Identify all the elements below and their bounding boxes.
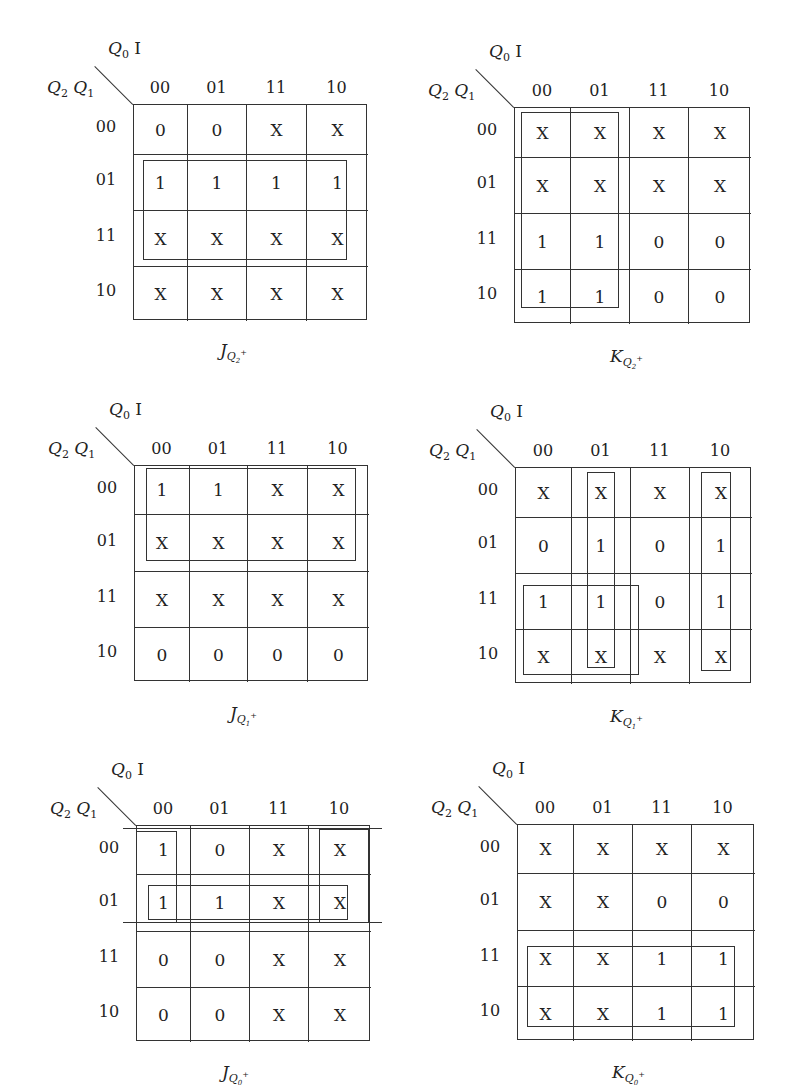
kmap-cell: 0 [689, 214, 751, 270]
row-label: 10 [475, 1001, 505, 1020]
kmap-title: KQ2+ [610, 346, 643, 372]
kmap-cell: X [515, 158, 571, 214]
kmap-cell: 1 [188, 155, 247, 211]
title-main: J [230, 703, 237, 723]
kmap-cell: 0 [137, 988, 191, 1042]
kmap-cell: X [135, 515, 190, 572]
kmap-cell: X [518, 825, 574, 874]
row-label: 11 [475, 946, 505, 965]
column-variables-label: Q0 I [489, 41, 522, 64]
kmap-cell: 0 [630, 270, 689, 324]
title-sup-plus: + [250, 712, 257, 721]
column-label: 00 [515, 441, 571, 460]
kmap-cell: 0 [689, 270, 751, 324]
row-label: 11 [94, 947, 124, 966]
kmap-cell: X [307, 211, 368, 267]
title-main: J [222, 1062, 229, 1082]
kmap-cell: X [250, 932, 309, 988]
kmap-cell: X [248, 572, 308, 628]
kmap-cell: 1 [516, 574, 572, 630]
kmap-cell: 1 [307, 155, 368, 211]
kmap-cell: X [690, 468, 752, 518]
kmap-cell: X [188, 211, 247, 267]
kmap-cell: X [134, 267, 188, 321]
corner-diagonal-line [97, 787, 136, 826]
kmap-cell: X [308, 515, 369, 572]
kmap-cell: X [247, 105, 307, 155]
kmap-cell: 1 [690, 518, 752, 574]
kmap-cell: 1 [690, 574, 752, 630]
title-main: J [220, 340, 227, 360]
corner-diagonal-line [476, 429, 515, 468]
kmap-cell: X [689, 158, 751, 214]
kmap-cell: X [572, 468, 631, 518]
column-label: 00 [136, 799, 190, 818]
title-subscript: Q0+ [229, 1072, 249, 1085]
title-sub-q: Q [237, 713, 246, 726]
kmap-cell: X [247, 267, 307, 321]
kmap-cell: X [309, 932, 371, 988]
kmap-grid: 00XX1111XXXXXXXX [133, 104, 367, 320]
column-label: 01 [573, 798, 632, 817]
kmap-cell: 1 [135, 466, 190, 515]
column-label: 11 [630, 441, 689, 460]
column-variables-label: Q0 I [490, 401, 523, 424]
kmap-cell: 0 [191, 988, 250, 1042]
title-sub-index: 1 [632, 724, 636, 732]
row-label: 01 [92, 531, 122, 550]
kmap-cell: 1 [692, 931, 755, 987]
kmap-cell: 0 [191, 932, 250, 988]
wrap-group-line [123, 922, 382, 923]
column-label: 01 [571, 441, 630, 460]
title-sup-plus: + [240, 349, 247, 358]
column-label: 11 [629, 81, 688, 100]
corner-diagonal-line [475, 69, 514, 108]
kmap-cell: X [309, 988, 371, 1042]
column-label: 11 [247, 439, 307, 458]
row-label: 11 [92, 587, 122, 606]
kmap-cell: X [309, 875, 371, 932]
column-label: 10 [691, 798, 754, 817]
kmap-grid: XXXXXX00XX11XX11 [517, 824, 754, 1040]
column-label: 00 [514, 81, 570, 100]
kmap-cell: X [518, 931, 574, 987]
title-main: K [612, 1062, 625, 1082]
kmap-cell: 0 [191, 826, 250, 875]
row-variables-label: Q2 Q1 [429, 440, 476, 463]
title-subscript: Q0+ [625, 1072, 645, 1085]
kmap-cell: 1 [571, 214, 630, 270]
kmap-cell: X [308, 572, 369, 628]
kmap-cell: 1 [137, 875, 191, 932]
row-label: 11 [91, 226, 121, 245]
title-sub-q: Q [625, 1072, 634, 1085]
kmap-cell: X [690, 630, 752, 684]
kmap-grid: XXXX01011101XXXX [515, 467, 751, 683]
kmap-cell: 0 [190, 628, 248, 682]
title-sub-index: 0 [238, 1080, 242, 1088]
column-variables-label: Q0 I [492, 758, 525, 781]
kmap-cell: 0 [248, 628, 308, 682]
kmap-cell: 1 [571, 270, 630, 324]
column-variables-label: Q0 I [111, 759, 144, 782]
kmap-cell: X [631, 630, 690, 684]
title-sup-plus: + [242, 1071, 249, 1080]
row-label: 00 [472, 120, 502, 139]
kmap-cell: 0 [516, 518, 572, 574]
row-label: 00 [473, 480, 503, 499]
kmap-cell: 0 [135, 628, 190, 682]
column-label: 10 [307, 439, 368, 458]
row-label: 01 [94, 891, 124, 910]
kmap-title: KQ0+ [612, 1062, 645, 1088]
kmap-title: KQ1+ [610, 706, 643, 732]
kmap-cell: 1 [633, 987, 692, 1041]
kmap-cell: X [307, 267, 368, 321]
kmap-cell: 1 [572, 574, 631, 630]
kmap-cell: X [308, 466, 369, 515]
kmap-title: JQ0+ [222, 1062, 249, 1088]
column-label: 01 [187, 78, 246, 97]
kmap-cell: 0 [134, 105, 188, 155]
kmap-grid: 10XX11XX00XX00XX [136, 825, 370, 1041]
kmap-grid: XXXXXXXX11001100 [514, 107, 750, 323]
corner-diagonal-line [478, 786, 517, 825]
kmap-cell: X [571, 158, 630, 214]
